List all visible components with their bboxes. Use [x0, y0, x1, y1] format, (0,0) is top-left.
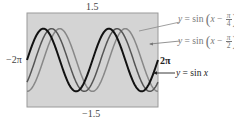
legend-x-var: x [204, 68, 208, 78]
x-max-label: 2π [160, 56, 170, 66]
y-max-label: 1.5 [86, 2, 99, 12]
legend-fraction: π4 [226, 12, 232, 27]
y-min-label: −1.5 [82, 109, 100, 119]
legend-entry-base: y = sin x [176, 68, 208, 78]
right-paren: ) [233, 34, 234, 49]
legend-eq: = sin [182, 14, 206, 24]
legend-fraction: π2 [226, 34, 232, 49]
fraction-denominator: 2 [226, 42, 232, 49]
legend-entry-shift-pi2: y = sin (x − π2) [178, 34, 234, 49]
fraction-denominator: 4 [226, 20, 232, 27]
legend-minus: − [215, 36, 225, 46]
legend-minus: − [215, 14, 225, 24]
right-paren: ) [233, 12, 234, 27]
legend-eq: = sin [180, 68, 204, 78]
x-min-label: −2π [6, 55, 22, 65]
legend-entry-shift-pi4: y = sin (x − π4) [178, 12, 234, 27]
legend-eq: = sin [182, 36, 206, 46]
